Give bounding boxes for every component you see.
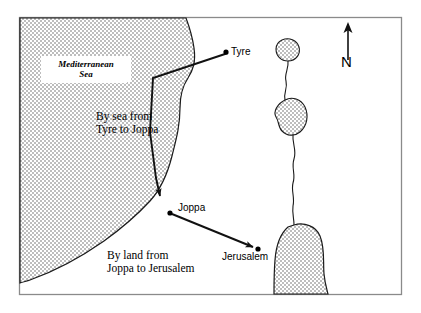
city-marker-tyre[interactable] [223, 49, 228, 54]
land-route-label-line-1: By land from [107, 249, 195, 262]
land-route-label: By land from Joppa to Jerusalem [107, 249, 195, 275]
sea-label-line-2: Sea [43, 69, 129, 79]
sea-route-label-line-1: By sea from [96, 110, 158, 123]
city-label-tyre: Tyre [231, 46, 250, 57]
sea-route-label: By sea from Tyre to Joppa [96, 110, 158, 136]
lake-huleh [276, 39, 299, 61]
compass-direction-label: N [341, 54, 352, 71]
sea-route-label-line-2: Tyre to Joppa [96, 123, 158, 136]
city-marker-joppa[interactable] [167, 210, 172, 215]
map-figure: Mediterranean Sea By sea from Tyre to Jo… [0, 0, 421, 313]
city-label-jerusalem: Jerusalem [222, 251, 268, 262]
dead-sea [274, 224, 328, 294]
sea-label-line-1: Mediterranean [43, 59, 129, 69]
city-label-joppa: Joppa [178, 202, 205, 213]
map-canvas [0, 0, 421, 313]
mediterranean-sea-label: Mediterranean Sea [41, 56, 131, 82]
land-route-label-line-2: Joppa to Jerusalem [107, 262, 195, 275]
